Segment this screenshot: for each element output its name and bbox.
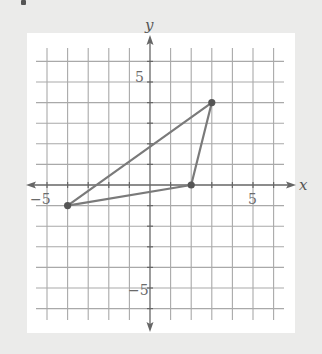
- y-tick-label-neg5: −5: [128, 282, 149, 298]
- y-tick-label-5: 5: [135, 69, 144, 85]
- x-axis-label: x: [299, 176, 308, 194]
- x-tick-label-neg5: −5: [30, 191, 51, 207]
- vertex-point: [208, 99, 215, 106]
- vertex-point: [188, 181, 195, 188]
- grid-lines: [36, 48, 284, 320]
- triangle-edge: [68, 103, 212, 206]
- x-tick-label-5: 5: [248, 191, 257, 207]
- vertex-point: [64, 202, 71, 209]
- y-axis-label: y: [144, 16, 154, 34]
- triangle: [68, 103, 212, 206]
- coordinate-plane: x y −5 5 5 −5: [0, 0, 322, 354]
